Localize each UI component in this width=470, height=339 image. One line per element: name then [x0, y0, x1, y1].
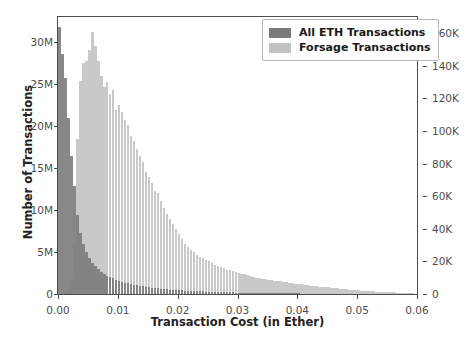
- y-axis-right-tick-mark: [423, 261, 427, 262]
- x-axis-ticks: 0.000.010.020.030.040.050.06: [57, 299, 418, 315]
- y-axis-right-tick-label: 100K: [432, 125, 459, 137]
- y-axis-right-tick-mark: [423, 229, 427, 230]
- y-axis-right-tick-label: 40K: [432, 223, 452, 235]
- legend-label-all-eth-transactions: All ETH Transactions: [299, 26, 425, 39]
- y-axis-right-tick-mark: [423, 294, 427, 295]
- y-axis-right-tick-mark: [423, 196, 427, 197]
- y-axis-left-tick-label: 10M: [31, 204, 53, 216]
- y-axis-left-tick-label: 25M: [31, 78, 53, 90]
- y-axis-left-tick-label: 20M: [31, 120, 53, 132]
- y-axis-right-tick-mark: [423, 66, 427, 67]
- y-axis-right-tick-label: 140K: [432, 60, 459, 72]
- x-axis-tick-mark: [58, 295, 59, 299]
- x-axis-tick-mark: [238, 295, 239, 299]
- y-axis-right-tick-label: 60K: [432, 190, 452, 202]
- y-axis-left-ticks: 05M10M15M20M25M30M: [20, 16, 53, 295]
- legend-swatch-all-eth-transactions: [269, 28, 291, 38]
- y-axis-right-tick-mark: [423, 164, 427, 165]
- legend-item-all-eth-transactions[interactable]: All ETH Transactions: [269, 25, 431, 40]
- y-axis-left-tick-label: 30M: [31, 36, 53, 48]
- legend-label-forsage-transactions: Forsage Transactions: [299, 41, 431, 54]
- y-axis-left-tick-label: 0: [46, 288, 53, 300]
- y-axis-right-tick-label: 0: [432, 288, 439, 300]
- x-axis-tick-mark: [178, 295, 179, 299]
- y-axis-left-tick-label: 5M: [37, 246, 53, 258]
- y-axis-right-tick-mark: [423, 131, 427, 132]
- x-axis-tick-mark: [417, 295, 418, 299]
- y-axis-right-tick-mark: [423, 98, 427, 99]
- x-axis-title: Transaction Cost (in Ether): [57, 315, 418, 329]
- x-axis-tick-mark: [297, 295, 298, 299]
- legend-swatch-forsage-transactions: [269, 43, 291, 53]
- legend: All ETH Transactions Forsage Transaction…: [262, 19, 439, 61]
- legend-item-forsage-transactions[interactable]: Forsage Transactions: [269, 40, 431, 55]
- x-axis-tick-mark: [357, 295, 358, 299]
- y-axis-right-tick-label: 80K: [432, 158, 452, 170]
- y-axis-right-tick-label: 120K: [432, 92, 459, 104]
- y-axis-left-tick-label: 15M: [31, 162, 53, 174]
- histogram-figure: Number of Transactions 05M10M15M20M25M30…: [0, 0, 470, 339]
- x-axis-tick-mark: [118, 295, 119, 299]
- y-axis-right-tick-label: 20K: [432, 255, 452, 267]
